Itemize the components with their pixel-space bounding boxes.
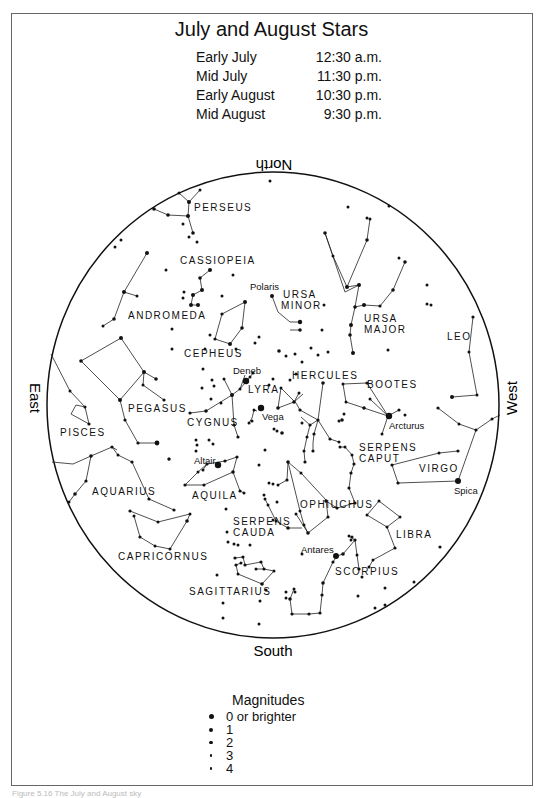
constellation-label: ANDROMEDA [128, 310, 207, 321]
constellation-label: CAPRICORNUS [118, 551, 208, 562]
constellation-label: MINOR [281, 300, 322, 311]
star-label-polaris: Polaris [250, 281, 279, 292]
constellation-label: BOOTES [367, 379, 418, 390]
star-dot-icon [210, 754, 213, 757]
constellation-label: AQUARIUS [92, 486, 156, 497]
star-dot-icon [210, 767, 212, 769]
constellation-label: URSA [364, 313, 398, 324]
star-label-arcturus: Arcturus [389, 420, 425, 431]
star-dot-icon [209, 741, 212, 744]
constellation-label: CYGNUS [187, 417, 239, 428]
direction-south: South [253, 642, 292, 659]
constellation-label: MAJOR [364, 324, 407, 335]
constellation-label: LYRA [248, 384, 279, 395]
direction-west: West [503, 380, 520, 415]
legend-item: 4 [200, 762, 400, 775]
constellation-label: CEPHEUS [184, 348, 243, 359]
legend-title: Magnitudes [200, 692, 400, 708]
legend-label: 0 or brighter [222, 710, 296, 723]
star-dot-icon [209, 714, 214, 719]
constellation-label: OPHIUCHUS [300, 499, 374, 510]
constellation-label: CAPUT [359, 453, 400, 464]
constellation-label: CASSIOPEIA [180, 255, 256, 266]
star-label-vega: Vega [262, 411, 284, 422]
constellation-label: PEGASUS [128, 403, 187, 414]
constellation-label: PERSEUS [194, 202, 252, 213]
constellation-label: SERPENS [359, 442, 417, 453]
constellation-label: LIBRA [396, 529, 432, 540]
constellation-label: SCORPIUS [335, 566, 399, 577]
constellation-label: HERCULES [292, 370, 358, 381]
constellation-label: SAGITTARIUS [189, 586, 271, 597]
constellation-label: LEO [447, 331, 472, 342]
constellation-label: URSA [283, 289, 317, 300]
constellation-label: SERPENS [233, 516, 291, 527]
star-dot-icon [209, 728, 213, 732]
magnitude-legend: Magnitudes 0 or brighter 1 2 3 4 [200, 692, 400, 775]
star-label-altair: Altair [194, 455, 216, 466]
figure-caption: Figure 5.16 The July and August sky [12, 789, 141, 798]
direction-north: North [256, 157, 293, 174]
constellation-label: PISCES [60, 427, 106, 438]
sky-horizon-circle [47, 172, 499, 638]
constellation-label: CAUDA [233, 527, 276, 538]
star-label-spica: Spica [454, 485, 478, 496]
constellation-label: AQUILA [192, 490, 238, 501]
star-label-deneb: Deneb [233, 365, 261, 376]
direction-east: East [27, 383, 44, 414]
legend-label: 4 [222, 762, 233, 775]
constellation-label: VIRGO [419, 463, 459, 474]
star-label-antares: Antares [301, 544, 334, 555]
